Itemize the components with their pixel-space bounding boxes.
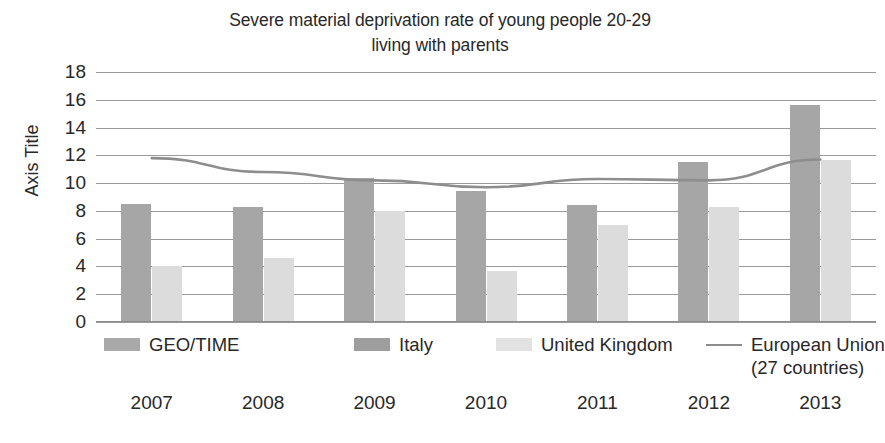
- y-tick-label: 12: [26, 145, 86, 164]
- y-tick-label: 16: [26, 90, 86, 109]
- x-tick-label-2013: 2013: [770, 392, 870, 414]
- chart-title-line-1: Severe material deprivation rate of youn…: [229, 10, 651, 30]
- chart-legend: GEO/TIMEItalyUnited KingdomEuropean Unio…: [96, 333, 876, 385]
- x-tick-label-2007: 2007: [102, 392, 202, 414]
- chart-title-line-2: living with parents: [110, 33, 770, 58]
- legend-item-geotime[interactable]: GEO/TIME: [104, 333, 239, 356]
- legend-item-line[interactable]: European Union(27 countries): [706, 333, 885, 379]
- x-tick-label-2010: 2010: [436, 392, 536, 414]
- legend-line-swatch-icon: [706, 338, 742, 351]
- legend-label: United Kingdom: [541, 333, 673, 356]
- y-tick-label: 14: [26, 118, 86, 137]
- legend-label: Italy: [399, 333, 433, 356]
- y-tick-label: 4: [26, 256, 86, 275]
- legend-label: European Union(27 countries): [751, 333, 885, 379]
- legend-color-swatch-icon: [496, 338, 532, 351]
- plot-area: 024681012141618: [96, 72, 876, 322]
- x-tick-label-2008: 2008: [213, 392, 313, 414]
- legend-item-italy[interactable]: Italy: [354, 333, 433, 356]
- x-tick-label-2011: 2011: [547, 392, 647, 414]
- eu-line-series: [96, 72, 876, 322]
- y-tick-label: 2: [26, 284, 86, 303]
- y-tick-label: 8: [26, 201, 86, 220]
- legend-item-uk[interactable]: United Kingdom: [496, 333, 673, 356]
- y-tick-label: 18: [26, 62, 86, 81]
- chart-title: Severe material deprivation rate of youn…: [110, 8, 770, 58]
- y-tick-label: 0: [26, 312, 86, 331]
- x-tick-label-2012: 2012: [659, 392, 759, 414]
- x-tick-label-2009: 2009: [325, 392, 425, 414]
- y-tick-label: 6: [26, 229, 86, 248]
- gridline: [96, 322, 876, 323]
- legend-label: GEO/TIME: [149, 333, 239, 356]
- legend-color-swatch-icon: [354, 338, 390, 351]
- x-axis-labels: 2007200820092010201120122013: [96, 392, 876, 422]
- y-tick-label: 10: [26, 173, 86, 192]
- legend-color-swatch-icon: [104, 338, 140, 351]
